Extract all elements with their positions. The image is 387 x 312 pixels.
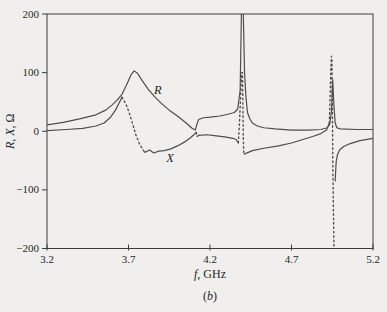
x-tick-label: 4.7 bbox=[285, 253, 299, 265]
figure-caption: (b) bbox=[203, 289, 217, 303]
x-tick-label: 3.7 bbox=[122, 253, 136, 265]
y-tick-label: −200 bbox=[16, 242, 39, 254]
curve-label-R: R bbox=[153, 83, 162, 97]
curve-label-X: X bbox=[165, 151, 175, 165]
x-tick-label: 5.2 bbox=[366, 253, 380, 265]
impedance-plot: 2001000−100−2003.23.74.24.75.2RXR, X, Ωf… bbox=[0, 0, 387, 312]
curve-R-solid-segment bbox=[47, 11, 373, 130]
x-tick-label: 4.2 bbox=[203, 253, 217, 265]
curve-X-solid-segment bbox=[335, 138, 373, 181]
curve-X-solid-segment bbox=[199, 135, 238, 143]
curve-X-dashed-segment bbox=[196, 132, 198, 136]
curves-group bbox=[47, 11, 373, 251]
y-axis-title: R, X, Ω bbox=[3, 113, 17, 150]
y-tick-label: 200 bbox=[23, 8, 40, 20]
y-tick-label: 100 bbox=[23, 66, 40, 78]
x-axis-title: f, GHz bbox=[194, 267, 226, 281]
curve-X-solid-segment bbox=[47, 97, 122, 130]
x-tick-label: 3.2 bbox=[40, 253, 54, 265]
y-tick-label: 0 bbox=[34, 125, 40, 137]
curve-X-solid-segment bbox=[145, 132, 196, 153]
impedance-figure: 2001000−100−2003.23.74.24.75.2RXR, X, Ωf… bbox=[0, 0, 387, 312]
y-tick-label: −100 bbox=[16, 183, 39, 195]
curve-X-dashed-segment bbox=[122, 97, 145, 152]
curve-X-dashed-segment bbox=[238, 73, 243, 155]
curve-X-solid-segment bbox=[244, 123, 329, 154]
